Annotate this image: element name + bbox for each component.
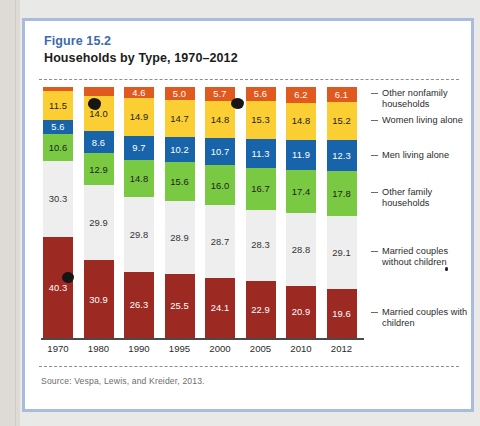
bar-segment[interactable]: 30.3 xyxy=(43,161,73,237)
legend-leader-line xyxy=(371,251,378,252)
bar-segment[interactable]: 11.3 xyxy=(246,139,276,167)
bar-segment-value: 29.9 xyxy=(89,218,108,227)
bar-segment-value: 4.6 xyxy=(132,88,145,97)
bar-segment[interactable]: 6.1 xyxy=(327,87,357,102)
bar-segment[interactable]: 29.9 xyxy=(84,185,114,260)
legend-leader-line xyxy=(371,192,378,193)
source-note: Source: Vespa, Lewis, and Kreider, 2013. xyxy=(41,376,205,386)
bar-segment[interactable]: 24.1 xyxy=(205,278,235,338)
divider-bottom xyxy=(39,366,459,367)
bar-column[interactable]: 5.014.710.215.628.925.5 xyxy=(165,87,195,338)
legend-item-label: Men living alone xyxy=(382,150,449,161)
x-axis-tick-label: 1980 xyxy=(82,343,116,354)
bar-segment[interactable]: 11.9 xyxy=(286,140,316,170)
bar-column[interactable]: 5.714.810.716.028.724.1 xyxy=(205,87,235,338)
bar-segment-value: 10.6 xyxy=(49,143,68,152)
bar-segment[interactable]: 11.5 xyxy=(43,91,73,120)
legend-item[interactable]: Men living alone xyxy=(371,150,449,161)
bar-segment[interactable]: 20.9 xyxy=(286,286,316,338)
bar-segment[interactable]: 14.7 xyxy=(165,100,195,137)
divider-top xyxy=(39,79,459,80)
bar-column[interactable]: 4.614.99.714.829.826.3 xyxy=(124,87,154,338)
bar-segment[interactable]: 5.7 xyxy=(205,87,235,101)
bar-segment[interactable]: 6.2 xyxy=(286,87,316,103)
bar-segment[interactable]: 29.8 xyxy=(124,197,154,272)
bar-segment-value: 14.8 xyxy=(130,174,149,183)
legend-item[interactable]: Women living alone xyxy=(371,115,463,126)
bar-column[interactable]: 5.615.311.316.728.322.9 xyxy=(246,87,276,338)
bar-segment[interactable]: 9.7 xyxy=(124,136,154,160)
bar-segment[interactable]: 14.8 xyxy=(286,103,316,140)
bar-segment-value: 24.1 xyxy=(211,303,230,312)
bar-segment[interactable]: 10.6 xyxy=(43,134,73,161)
legend-item[interactable]: Married couples without children xyxy=(371,246,477,268)
bar-segment[interactable]: 19.6 xyxy=(327,289,357,338)
bar-segment[interactable]: 16.7 xyxy=(246,168,276,210)
bar-segment-value: 11.9 xyxy=(292,150,310,159)
bar-segment-value: 9.7 xyxy=(132,143,145,152)
bar-segment[interactable]: 5.6 xyxy=(246,87,276,101)
bar-segment[interactable]: 26.3 xyxy=(124,272,154,338)
bar-segment[interactable]: 14.0 xyxy=(84,96,114,131)
bar-segment-value: 5.6 xyxy=(254,89,267,98)
x-axis-labels: 19701980199019952000200520102012 xyxy=(39,343,369,361)
bar-column[interactable]: 1.71.711.55.610.630.340.3 xyxy=(43,87,73,338)
bar-segment[interactable]: 28.8 xyxy=(286,213,316,285)
bar-segment[interactable]: 17.8 xyxy=(327,171,357,216)
x-axis-tick-label: 2000 xyxy=(203,343,237,354)
bar-segment[interactable]: 17.4 xyxy=(286,170,316,214)
bar-segment[interactable]: 14.9 xyxy=(124,98,154,135)
bar-segment[interactable]: 8.6 xyxy=(84,131,114,153)
bar-segment-value: 29.1 xyxy=(332,248,351,257)
bar-segment[interactable]: 10.7 xyxy=(205,138,235,165)
figure-number: Figure 15.2 xyxy=(44,34,111,48)
bar-segment[interactable]: 5.0 xyxy=(165,87,195,100)
bar-column[interactable]: 6.214.811.917.428.820.9 xyxy=(286,87,316,338)
bar-segment[interactable]: 16.0 xyxy=(205,165,235,205)
bar-segment[interactable]: 40.3 xyxy=(43,237,73,338)
bar-segment[interactable]: 4.6 xyxy=(124,87,154,99)
bar-segment[interactable]: 28.3 xyxy=(246,210,276,281)
bar-segment[interactable]: 5.6 xyxy=(43,120,73,134)
bar-segment[interactable]: 14.8 xyxy=(205,101,235,138)
bar-column[interactable]: 3.63.614.08.612.929.930.9 xyxy=(84,87,114,338)
x-axis-line xyxy=(41,338,364,340)
page: Figure 15.2 Households by Type, 1970–201… xyxy=(0,0,480,426)
bar-segment[interactable]: 14.8 xyxy=(124,160,154,197)
bar-segment-value: 14.7 xyxy=(170,114,189,123)
legend-item[interactable]: Other family households xyxy=(371,187,477,209)
page-edge xyxy=(0,0,20,426)
bar-segment[interactable]: 25.5 xyxy=(165,274,195,338)
legend-leader-line xyxy=(371,93,378,94)
bar-segment[interactable]: 30.9 xyxy=(84,260,114,338)
bar-segment[interactable]: 15.3 xyxy=(246,101,276,139)
legend-item-label: Women living alone xyxy=(382,115,463,126)
bar-segment-value: 29.8 xyxy=(130,230,149,239)
bar-segment-value: 6.2 xyxy=(294,90,307,99)
legend-item-label: Other nonfamily households xyxy=(382,88,477,110)
bar-segment-value: 8.6 xyxy=(92,138,105,147)
bar-segment-value: 12.3 xyxy=(332,151,351,160)
bar-segment[interactable]: 15.6 xyxy=(165,162,195,201)
bar-segment[interactable]: 15.2 xyxy=(327,102,357,140)
x-axis-tick-label: 1995 xyxy=(163,343,197,354)
bar-segment-value: 40.3 xyxy=(49,283,68,292)
bar-segment-value: 20.9 xyxy=(292,307,311,316)
bar-column[interactable]: 6.115.212.317.829.119.6 xyxy=(327,87,357,338)
bar-segment-value: 17.8 xyxy=(332,189,351,198)
bar-segment[interactable]: 28.9 xyxy=(165,201,195,274)
bar-segment[interactable]: 29.1 xyxy=(327,216,357,289)
bar-segment-value: 12.9 xyxy=(89,165,108,174)
legend-item-label: Married couples with children xyxy=(382,307,477,329)
bar-segment[interactable]: 3.63.6 xyxy=(84,87,114,96)
bar-segment[interactable]: 12.3 xyxy=(327,140,357,171)
bar-segment-value: 6.1 xyxy=(335,90,348,99)
legend-item[interactable]: Married couples with children xyxy=(371,307,477,329)
x-axis-tick-label: 1990 xyxy=(122,343,156,354)
bar-segment[interactable]: 22.9 xyxy=(246,281,276,338)
bar-segment-value: 22.9 xyxy=(251,305,270,314)
legend-item[interactable]: Other nonfamily households xyxy=(371,88,477,110)
bar-segment[interactable]: 28.7 xyxy=(205,205,235,277)
bar-segment[interactable]: 10.2 xyxy=(165,137,195,163)
bar-segment[interactable]: 12.9 xyxy=(84,153,114,185)
